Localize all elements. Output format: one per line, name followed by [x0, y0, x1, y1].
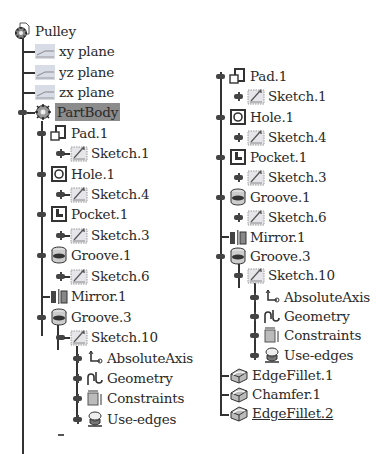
tree-node-mirror1[interactable]: Mirror.1: [229, 227, 305, 247]
node-label: Sketch.3: [268, 168, 326, 186]
expand-toggle[interactable]: [73, 396, 82, 401]
tree-node-groove3[interactable]: Groove.3: [50, 307, 131, 327]
tree-node-pocket1[interactable]: Pocket.1: [229, 147, 307, 167]
collapse-toggle[interactable]: [216, 115, 225, 120]
tree-node-pocket1[interactable]: Pocket.1: [50, 204, 128, 224]
tree-node-sketch6[interactable]: Sketch.6: [247, 207, 326, 227]
pad-icon: [229, 67, 247, 85]
collapse-toggle[interactable]: [37, 131, 46, 136]
tree-node-sketch6[interactable]: Sketch.6: [70, 266, 149, 286]
tree-node-sketch10[interactable]: Sketch.10: [247, 265, 335, 285]
tree-node-yz-plane[interactable]: yz plane: [34, 62, 114, 82]
node-label: Groove.1: [71, 246, 131, 264]
sketch-icon: [70, 226, 88, 244]
expand-toggle[interactable]: [234, 135, 243, 140]
tree-node-geometry[interactable]: Geometry: [263, 306, 350, 326]
tree-node-constraints[interactable]: Constraints: [263, 325, 361, 345]
node-label: Pulley: [35, 22, 76, 40]
tree-node-pad1[interactable]: Pad.1: [50, 123, 108, 143]
tree-node-use-edges[interactable]: Use-edges: [86, 409, 176, 429]
node-label: Mirror.1: [250, 228, 305, 246]
expand-toggle[interactable]: [73, 376, 82, 381]
hole-icon: [229, 108, 247, 126]
collapse-toggle[interactable]: [37, 253, 46, 258]
collapse-toggle[interactable]: [216, 74, 225, 79]
tree-node-sketch4[interactable]: Sketch.4: [70, 184, 149, 204]
collapse-toggle[interactable]: [216, 155, 225, 160]
expand-toggle[interactable]: [250, 295, 259, 300]
plane-icon: [34, 42, 56, 60]
collapse-toggle[interactable]: [216, 195, 225, 200]
tree-node-absoluteaxis[interactable]: AbsoluteAxis: [86, 348, 193, 368]
tree-node-absoluteaxis[interactable]: AbsoluteAxis: [263, 287, 370, 307]
expand-toggle[interactable]: [250, 333, 259, 338]
collapse-toggle[interactable]: [234, 273, 243, 278]
mirror-icon: [229, 228, 247, 246]
tree-node-chamfer1[interactable]: Chamfer.1: [229, 384, 321, 404]
node-label: Sketch.4: [91, 185, 149, 203]
part-icon: [14, 22, 32, 40]
tree-node-sketch10[interactable]: Sketch.10: [70, 327, 158, 347]
tree-node-xy-plane[interactable]: xy plane: [34, 41, 115, 61]
tree-node-hole1[interactable]: Hole.1: [229, 107, 294, 127]
node-label: Sketch.3: [91, 226, 149, 244]
tree-node-zx-plane[interactable]: zx plane: [34, 82, 114, 102]
expand-toggle[interactable]: [234, 175, 243, 180]
tree-continuation-mark: [58, 434, 64, 436]
expand-toggle[interactable]: [234, 215, 243, 220]
node-label: Use-edges: [284, 346, 353, 364]
expand-toggle[interactable]: [73, 417, 82, 422]
node-label: Constraints: [284, 326, 361, 344]
constraints-icon: [263, 326, 281, 344]
node-label: Pocket.1: [71, 205, 128, 223]
tree-node-sketch1[interactable]: Sketch.1: [247, 86, 326, 106]
tree-node-sketch1[interactable]: Sketch.1: [70, 143, 149, 163]
collapse-toggle[interactable]: [37, 315, 46, 320]
collapse-toggle[interactable]: [18, 110, 27, 115]
tree-node-sketch3[interactable]: Sketch.3: [247, 167, 326, 187]
tree-node-partbody[interactable]: PartBody: [34, 102, 120, 122]
tree-node-groove1[interactable]: Groove.1: [50, 245, 131, 265]
sketch-icon: [70, 144, 88, 162]
use-edges-icon: [263, 346, 281, 364]
node-label: Sketch.1: [268, 87, 326, 105]
tree-node-use-edges[interactable]: Use-edges: [263, 345, 353, 365]
node-label: EdgeFillet.1: [252, 366, 333, 384]
expand-toggle[interactable]: [73, 356, 82, 361]
tree-node-groove3[interactable]: Groove.3: [229, 246, 310, 266]
tree-node-mirror1[interactable]: Mirror.1: [50, 286, 126, 306]
node-label: Geometry: [107, 369, 173, 387]
edge-fillet-icon: [229, 366, 249, 384]
collapse-toggle[interactable]: [216, 254, 225, 259]
groove-icon: [229, 188, 247, 206]
tree-node-groove1[interactable]: Groove.1: [229, 187, 310, 207]
tree-trunk-line: [220, 72, 222, 416]
tree-node-pad1[interactable]: Pad.1: [229, 66, 287, 86]
sketch-icon: [247, 266, 265, 284]
geometry-icon: [86, 369, 104, 387]
tree-node-constraints[interactable]: Constraints: [86, 388, 184, 408]
tree-node-geometry[interactable]: Geometry: [86, 368, 173, 388]
expand-toggle[interactable]: [234, 94, 243, 99]
plane-icon: [34, 63, 56, 81]
collapse-toggle[interactable]: [37, 172, 46, 177]
tree-node-sketch3[interactable]: Sketch.3: [70, 225, 149, 245]
node-label: Chamfer.1: [252, 385, 321, 403]
tree-node-hole1[interactable]: Hole.1: [50, 164, 115, 184]
expand-toggle[interactable]: [250, 353, 259, 358]
pocket-icon: [50, 205, 68, 223]
collapse-toggle[interactable]: [37, 212, 46, 217]
tree-node-edgefillet2[interactable]: EdgeFillet.2: [229, 403, 333, 423]
axis-icon: [263, 288, 281, 306]
tree-node-edgefillet1[interactable]: EdgeFillet.1: [229, 365, 333, 385]
sketch-icon: [247, 87, 265, 105]
sketch-icon: [247, 208, 265, 226]
expand-toggle[interactable]: [250, 314, 259, 319]
node-label: Sketch.4: [268, 128, 326, 146]
tree-node-pulley[interactable]: Pulley: [14, 21, 76, 41]
sketch-icon: [247, 168, 265, 186]
chamfer-icon: [229, 385, 249, 403]
tree-node-sketch4[interactable]: Sketch.4: [247, 127, 326, 147]
node-label: EdgeFillet.2: [252, 404, 333, 422]
groove-icon: [50, 246, 68, 264]
